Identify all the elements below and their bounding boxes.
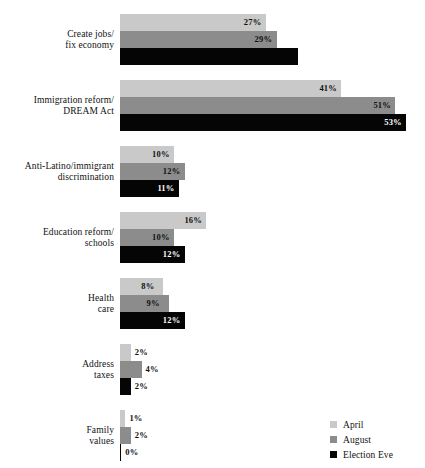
- legend-label: Election Eve: [343, 450, 393, 460]
- bar-august: [120, 361, 142, 378]
- bar-august: [120, 427, 131, 444]
- bar-value-label: 12%: [163, 163, 181, 180]
- bar-value-label: 8%: [141, 278, 154, 295]
- bar-chart: Create jobs/fix economy27%29%33%Immigrat…: [0, 0, 425, 468]
- bar-april: [120, 410, 125, 427]
- legend-item[interactable]: Election Eve: [330, 447, 393, 462]
- bar-group: Create jobs/fix economy27%29%33%: [0, 14, 425, 80]
- bar-value-label: 29%: [255, 31, 273, 48]
- chart-legend: AprilAugustElection Eve: [330, 417, 393, 462]
- category-label: Healthcare: [0, 293, 114, 315]
- bar-value-label: 16%: [184, 212, 202, 229]
- bar-value-label: 41%: [319, 80, 337, 97]
- category-label-line: Address: [0, 359, 114, 370]
- legend-label: August: [343, 435, 371, 445]
- bar-value-label: 11%: [157, 180, 174, 197]
- bar-value-label: 0%: [125, 444, 138, 461]
- category-label-line: taxes: [0, 370, 114, 381]
- bar-election: [120, 114, 406, 131]
- bar-value-label: 53%: [384, 114, 402, 131]
- bar-value-label: 33%: [276, 48, 294, 65]
- category-label: Education reform/schools: [0, 227, 114, 249]
- category-label-line: Anti-Latino/immigrant: [0, 161, 114, 172]
- bar-value-label: 12%: [163, 246, 181, 263]
- bar-april: [120, 344, 131, 361]
- bar-august: [120, 31, 277, 48]
- bar-value-label: 2%: [135, 427, 148, 444]
- category-label-line: DREAM Act: [0, 106, 114, 117]
- bar-value-label: 12%: [163, 312, 181, 329]
- legend-swatch-icon: [330, 421, 337, 428]
- bar-august: [120, 97, 395, 114]
- legend-item[interactable]: August: [330, 432, 393, 447]
- bar-group: Education reform/schools16%10%12%: [0, 212, 425, 278]
- bar-group: Healthcare8%9%12%: [0, 278, 425, 344]
- bar-group: Immigration reform/DREAM Act41%51%53%: [0, 80, 425, 146]
- bar-value-label: 1%: [129, 410, 142, 427]
- bar-august: [120, 295, 169, 312]
- category-label: Create jobs/fix economy: [0, 29, 114, 51]
- category-label-line: Create jobs/: [0, 29, 114, 40]
- bar-election: [120, 444, 121, 461]
- category-label: Anti-Latino/immigrantdiscrimination: [0, 161, 114, 183]
- bar-value-label: 27%: [244, 14, 262, 31]
- category-label-line: Health: [0, 293, 114, 304]
- bar-groups-container: Create jobs/fix economy27%29%33%Immigrat…: [0, 14, 425, 468]
- category-label-line: schools: [0, 238, 114, 249]
- legend-label: April: [343, 420, 364, 430]
- bar-election: [120, 48, 298, 65]
- legend-swatch-icon: [330, 436, 337, 443]
- category-label-line: discrimination: [0, 172, 114, 183]
- legend-item[interactable]: April: [330, 417, 393, 432]
- bar-value-label: 4%: [146, 361, 159, 378]
- bar-value-label: 10%: [152, 146, 170, 163]
- bar-group: Anti-Latino/immigrantdiscrimination10%12…: [0, 146, 425, 212]
- bar-value-label: 9%: [147, 295, 160, 312]
- bar-value-label: 2%: [135, 378, 148, 395]
- category-label-line: values: [0, 436, 114, 447]
- legend-swatch-icon: [330, 451, 337, 458]
- bar-value-label: 10%: [152, 229, 170, 246]
- category-label-line: fix economy: [0, 40, 114, 51]
- bar-group: Addresstaxes2%4%2%: [0, 344, 425, 410]
- category-label-line: Family: [0, 425, 114, 436]
- bar-election: [120, 378, 131, 395]
- category-label: Addresstaxes: [0, 359, 114, 381]
- category-label: Familyvalues: [0, 425, 114, 447]
- bar-april: [120, 80, 341, 97]
- category-label-line: Education reform/: [0, 227, 114, 238]
- bar-value-label: 2%: [135, 344, 148, 361]
- category-label: Immigration reform/DREAM Act: [0, 95, 114, 117]
- bar-value-label: 51%: [373, 97, 391, 114]
- category-label-line: care: [0, 304, 114, 315]
- category-label-line: Immigration reform/: [0, 95, 114, 106]
